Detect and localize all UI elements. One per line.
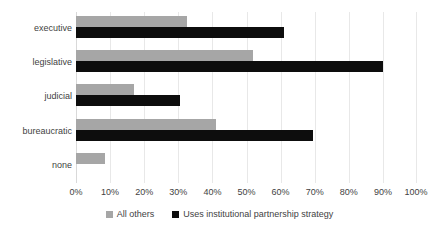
category-label-legislative: legislative (0, 57, 72, 68)
category-label-none: none (0, 160, 72, 171)
bar-group-executive (76, 12, 417, 46)
bar-group-legislative (76, 46, 417, 80)
bar-group-judicial (76, 80, 417, 114)
legend-item-all-others: All others (106, 208, 155, 220)
xtick-0: 0% (69, 186, 82, 198)
xtick-70: 70% (306, 186, 324, 198)
bar-legislative-all-others (76, 50, 253, 61)
xtick-60: 60% (272, 186, 290, 198)
legend-item-partnership: Uses institutional partnership strategy (172, 208, 333, 220)
category-label-executive: executive (0, 23, 72, 34)
xtick-30: 30% (169, 186, 187, 198)
xtick-10: 10% (101, 186, 119, 198)
bar-none-all-others (76, 153, 105, 164)
xtick-90: 90% (374, 186, 392, 198)
xtick-20: 20% (135, 186, 153, 198)
bar-judicial-all-others (76, 84, 134, 95)
legend-label-partnership: Uses institutional partnership strategy (183, 208, 333, 220)
xtick-100: 100% (404, 186, 427, 198)
xtick-80: 80% (340, 186, 358, 198)
legend-label-all-others: All others (117, 208, 155, 220)
bar-bureaucratic-partnership (76, 130, 313, 141)
bar-group-bureaucratic (76, 115, 417, 149)
category-label-bureaucratic: bureaucratic (0, 126, 72, 137)
plot-area (76, 12, 417, 183)
value-axis: 0% 10% 20% 30% 40% 50% 60% 70% 80% 90% 1… (76, 186, 417, 200)
bar-groups (76, 12, 417, 183)
legend-swatch-partnership (172, 211, 179, 218)
xtick-50: 50% (237, 186, 255, 198)
bar-legislative-partnership (76, 61, 383, 72)
bar-group-none (76, 149, 417, 183)
category-label-judicial: judicial (0, 91, 72, 102)
bar-chart: executive legislative judicial bureaucra… (0, 0, 439, 242)
category-axis: executive legislative judicial bureaucra… (0, 12, 72, 183)
chart-legend: All others Uses institutional partnershi… (0, 208, 439, 220)
legend-swatch-all-others (106, 211, 113, 218)
xtick-40: 40% (203, 186, 221, 198)
bar-judicial-partnership (76, 95, 180, 106)
bar-executive-partnership (76, 27, 284, 38)
bar-bureaucratic-all-others (76, 119, 216, 130)
bar-executive-all-others (76, 16, 187, 27)
